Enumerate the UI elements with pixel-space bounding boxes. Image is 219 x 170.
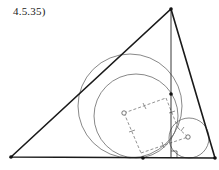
altitude-point [169,92,173,96]
vertex-a [9,155,13,159]
geometry-diagram [0,0,219,170]
vertex-c [213,156,217,160]
right-angle-mark [171,151,177,158]
small-center-marker [186,135,190,139]
base-point [141,156,145,160]
triangle [11,9,215,158]
vertex-b [169,7,173,11]
inner-large-circle [94,74,178,158]
outer-large-circle [78,54,182,158]
large-center-marker [122,111,126,115]
